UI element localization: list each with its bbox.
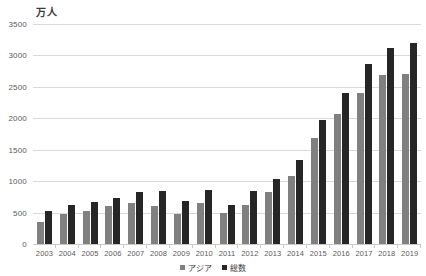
y-axis-tick-label: 500 bbox=[13, 208, 27, 217]
bar bbox=[410, 43, 417, 244]
chart-legend: アジア総数 bbox=[0, 262, 426, 273]
x-axis-tick-mark bbox=[147, 244, 170, 248]
bar bbox=[319, 120, 326, 244]
bar bbox=[91, 202, 98, 244]
legend-item[interactable]: アジア bbox=[180, 262, 212, 273]
bar-group bbox=[261, 24, 284, 244]
bar-group bbox=[375, 24, 398, 244]
x-axis-tick-mark bbox=[261, 244, 284, 248]
x-axis-tick-label: 2017 bbox=[353, 249, 376, 258]
bar bbox=[379, 75, 386, 244]
bar-group bbox=[33, 24, 56, 244]
legend-item[interactable]: 総数 bbox=[222, 262, 246, 273]
x-axis-tick-label: 2007 bbox=[124, 249, 147, 258]
y-axis-unit-label: 万人 bbox=[36, 4, 57, 19]
legend-swatch-icon bbox=[180, 265, 185, 270]
x-axis-tick-mark bbox=[56, 244, 79, 248]
bar bbox=[182, 201, 189, 244]
bar bbox=[387, 48, 394, 244]
x-axis-tick-label: 2013 bbox=[261, 249, 284, 258]
x-axis-tick-label: 2004 bbox=[56, 249, 79, 258]
x-axis-tick-marks bbox=[33, 244, 421, 248]
x-axis-tick-mark bbox=[124, 244, 147, 248]
x-axis-tick-mark bbox=[330, 244, 353, 248]
x-axis-tick-labels: 2003200420052006200720082009201020112012… bbox=[33, 249, 421, 258]
bar bbox=[342, 93, 349, 244]
plot-area bbox=[33, 24, 421, 244]
x-axis-tick-label: 2006 bbox=[101, 249, 124, 258]
x-axis-tick-label: 2003 bbox=[33, 249, 56, 258]
bar-group bbox=[398, 24, 421, 244]
bar-group bbox=[330, 24, 353, 244]
bar bbox=[296, 160, 303, 244]
bar bbox=[37, 222, 44, 244]
bar-group bbox=[238, 24, 261, 244]
bar-group bbox=[216, 24, 239, 244]
bar bbox=[402, 74, 409, 244]
x-axis-tick-mark bbox=[353, 244, 376, 248]
x-axis-tick-label: 2016 bbox=[330, 249, 353, 258]
bar-group bbox=[353, 24, 376, 244]
x-axis-tick-label: 2014 bbox=[284, 249, 307, 258]
bar bbox=[68, 205, 75, 244]
bar bbox=[242, 205, 249, 244]
x-axis-tick-mark bbox=[307, 244, 330, 248]
bar bbox=[113, 198, 120, 244]
bar bbox=[197, 203, 204, 244]
bar bbox=[311, 138, 318, 244]
y-axis-tick-label: 1500 bbox=[8, 145, 27, 154]
legend-label: 総数 bbox=[230, 262, 246, 273]
x-axis-tick-label: 2019 bbox=[398, 249, 421, 258]
bar bbox=[105, 206, 112, 244]
bar bbox=[159, 191, 166, 244]
bar-group bbox=[193, 24, 216, 244]
bar bbox=[45, 211, 52, 244]
bar bbox=[83, 211, 90, 244]
x-axis-tick-label: 2012 bbox=[238, 249, 261, 258]
bar bbox=[365, 64, 372, 244]
y-axis-tick-label: 0 bbox=[22, 240, 27, 249]
bar bbox=[151, 206, 158, 244]
bar bbox=[265, 192, 272, 244]
x-axis-tick-mark bbox=[284, 244, 307, 248]
y-axis-tick-label: 2500 bbox=[8, 82, 27, 91]
x-axis-tick-label: 2015 bbox=[307, 249, 330, 258]
bar-group bbox=[101, 24, 124, 244]
legend-swatch-icon bbox=[222, 265, 227, 270]
y-axis-tick-label: 3500 bbox=[8, 20, 27, 29]
y-axis-tick-labels: 3500300025002000150010005000 bbox=[0, 24, 30, 244]
bar bbox=[357, 93, 364, 244]
y-axis-tick-label: 1000 bbox=[8, 177, 27, 186]
bar bbox=[136, 192, 143, 244]
bar bbox=[334, 114, 341, 244]
x-axis-tick-mark bbox=[33, 244, 56, 248]
x-axis-tick-mark bbox=[170, 244, 193, 248]
x-axis-tick-mark bbox=[193, 244, 216, 248]
x-axis-tick-mark bbox=[375, 244, 398, 248]
x-axis-tick-label: 2009 bbox=[170, 249, 193, 258]
bar-group bbox=[56, 24, 79, 244]
bar bbox=[250, 191, 257, 244]
x-axis-tick-label: 2018 bbox=[375, 249, 398, 258]
bar-group bbox=[79, 24, 102, 244]
x-axis-tick-label: 2011 bbox=[216, 249, 239, 258]
bar bbox=[228, 205, 235, 244]
x-axis-tick-label: 2005 bbox=[79, 249, 102, 258]
x-axis-tick-mark bbox=[79, 244, 102, 248]
legend-label: アジア bbox=[188, 262, 212, 273]
bar-group bbox=[284, 24, 307, 244]
x-axis-tick-label: 2008 bbox=[147, 249, 170, 258]
bar-group bbox=[147, 24, 170, 244]
bar-group bbox=[124, 24, 147, 244]
y-axis-tick-label: 3000 bbox=[8, 51, 27, 60]
x-axis-tick-mark bbox=[238, 244, 261, 248]
bar-chart: 万人 3500300025002000150010005000 20032004… bbox=[0, 0, 426, 276]
bar bbox=[60, 214, 67, 244]
bar bbox=[128, 203, 135, 244]
bar-group bbox=[170, 24, 193, 244]
bar bbox=[205, 190, 212, 244]
x-axis-tick-label: 2010 bbox=[193, 249, 216, 258]
bar-groups bbox=[33, 24, 421, 244]
x-axis-tick-mark bbox=[101, 244, 124, 248]
bar bbox=[273, 179, 280, 244]
